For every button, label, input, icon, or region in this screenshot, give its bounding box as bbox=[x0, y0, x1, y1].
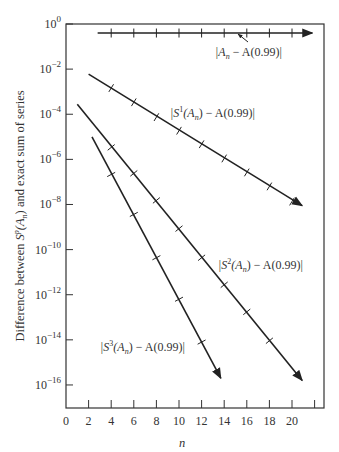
y-tick-label: 10−10 bbox=[35, 240, 62, 257]
y-axis-title: Difference between Sp(An) and exact sum … bbox=[12, 90, 29, 341]
x-axis-title: n bbox=[179, 436, 185, 450]
y-tick-label: 10−12 bbox=[35, 285, 61, 302]
series-label: |S2(An) − A(0.99)| bbox=[218, 257, 303, 274]
y-tick-label: 10−2 bbox=[39, 59, 61, 76]
data-point-mark bbox=[109, 84, 114, 92]
y-tick-label: 10−4 bbox=[39, 104, 61, 121]
y-tick-label: 100 bbox=[45, 14, 62, 31]
series-labels: |An − A(0.99)||S1(An) − A(0.99)||S2(An) … bbox=[100, 34, 303, 356]
x-tick-label: 8 bbox=[153, 414, 159, 428]
x-tick-label: 14 bbox=[218, 414, 230, 428]
x-tick-label: 0 bbox=[63, 414, 69, 428]
series-1 bbox=[89, 74, 303, 206]
x-axis: 02468101214161820 bbox=[63, 400, 315, 428]
x-tick-label: 20 bbox=[286, 414, 298, 428]
series-label: |An − A(0.99)| bbox=[215, 45, 282, 61]
x-tick-label: 18 bbox=[263, 414, 275, 428]
x-tick-label: 2 bbox=[86, 414, 92, 428]
convergence-chart: 10010−210−410−610−810−1010−1210−1410−16 … bbox=[0, 0, 339, 452]
series-label: |S1(An) − A(0.99)| bbox=[170, 105, 255, 122]
x-tick-label: 10 bbox=[173, 414, 185, 428]
y-tick-label: 10−14 bbox=[35, 330, 62, 347]
x-tick-label: 6 bbox=[131, 414, 137, 428]
y-axis: 10010−210−410−610−810−1010−1210−1410−16 bbox=[35, 14, 73, 392]
y-tick-label: 10−16 bbox=[35, 375, 62, 392]
series-layer bbox=[77, 29, 312, 381]
x-tick-label: 4 bbox=[108, 414, 114, 428]
x-tick-label: 16 bbox=[241, 414, 253, 428]
y-tick-label: 10−6 bbox=[39, 149, 61, 166]
series-0 bbox=[98, 29, 313, 38]
x-tick-label: 12 bbox=[196, 414, 208, 428]
y-tick-label: 10−8 bbox=[39, 194, 61, 211]
series-label: |S3(An) − A(0.99)| bbox=[100, 339, 185, 356]
